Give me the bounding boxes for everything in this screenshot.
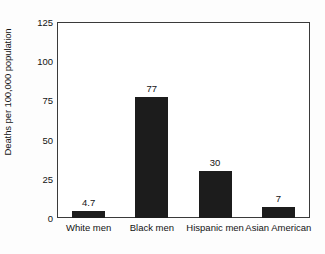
- bar-group: 7: [262, 22, 295, 218]
- bars-layer: 4.777307: [57, 22, 310, 218]
- bar: [199, 171, 232, 218]
- bar-group: 30: [199, 22, 232, 218]
- y-tick-label: 25: [0, 173, 53, 184]
- chart-screenshot: Deaths per 100,000 population 0255075100…: [0, 0, 325, 254]
- x-axis-tick-labels: White menBlack menHispanic menAsian Amer…: [57, 222, 310, 238]
- x-tick-label: White men: [66, 222, 111, 233]
- y-tick-label: 100: [0, 56, 53, 67]
- bar-value-label: 7: [276, 193, 281, 204]
- bar-group: 4.7: [72, 22, 105, 218]
- bar-value-label: 4.7: [82, 197, 95, 208]
- bar-value-label: 30: [210, 157, 221, 168]
- x-tick-label: Hispanic men: [186, 222, 244, 233]
- x-tick-label: Black men: [130, 222, 174, 233]
- bar-group: 77: [135, 22, 168, 218]
- y-tick-label: 0: [0, 213, 53, 224]
- y-tick-label: 125: [0, 17, 53, 28]
- x-tick-label: Asian American: [245, 222, 311, 233]
- bar: [135, 97, 168, 218]
- bar: [72, 211, 105, 218]
- bar-value-label: 77: [147, 83, 158, 94]
- y-tick-label: 75: [0, 95, 53, 106]
- y-tick-label: 50: [0, 134, 53, 145]
- bar: [262, 207, 295, 218]
